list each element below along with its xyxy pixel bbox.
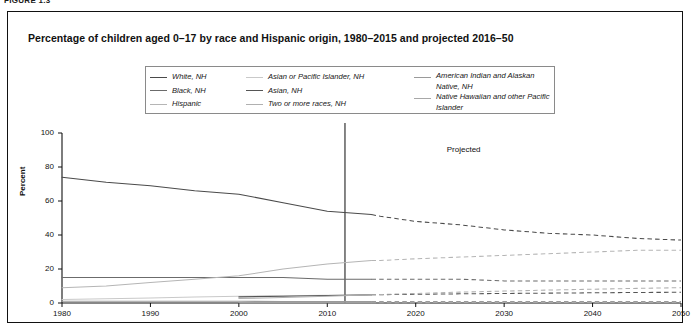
series-line-historical: [62, 261, 372, 288]
series-line-projected: [372, 215, 682, 241]
series-line-projected: [372, 279, 682, 281]
series-line-historical: [62, 177, 372, 214]
series-line-projected: [372, 250, 682, 260]
